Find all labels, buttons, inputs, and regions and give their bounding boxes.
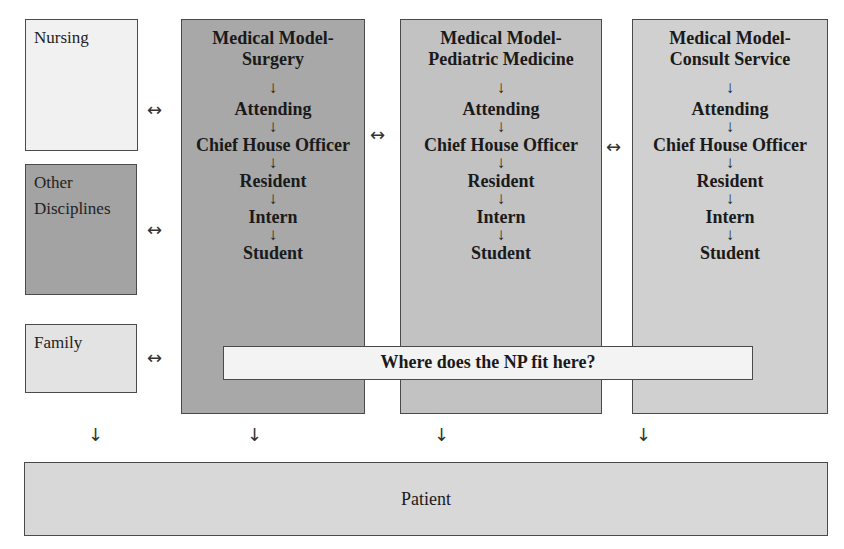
- down-arrow-icon: ↓: [88, 426, 103, 444]
- model-title-line: Consult Service: [633, 49, 827, 70]
- down-arrow-icon: ↓: [401, 120, 601, 134]
- down-arrow-icon: ↓: [434, 426, 449, 444]
- down-arrow-icon: ↓: [182, 78, 364, 98]
- rank-student: Student: [633, 242, 827, 264]
- model-title-line: Medical Model-: [633, 28, 827, 49]
- other-disciplines-box: Other Disciplines: [25, 164, 137, 295]
- model-title: Medical Model- Surgery: [182, 28, 364, 70]
- bidirectional-arrow-icon: ↔: [147, 101, 162, 119]
- down-arrow-icon: ↓: [636, 426, 651, 444]
- down-arrow-icon: ↓: [633, 78, 827, 98]
- rank-student: Student: [182, 242, 364, 264]
- patient-label: Patient: [401, 489, 451, 509]
- down-arrow-icon: ↓: [633, 156, 827, 170]
- nursing-label: Nursing: [34, 25, 89, 51]
- down-arrow-icon: ↓: [182, 192, 364, 206]
- model-title: Medical Model- Pediatric Medicine: [401, 28, 601, 70]
- family-label: Family: [34, 330, 82, 356]
- bidirectional-arrow-icon: ↔: [606, 138, 621, 156]
- down-arrow-icon: ↓: [401, 156, 601, 170]
- bidirectional-arrow-icon: ↔: [370, 126, 385, 144]
- down-arrow-icon: ↓: [633, 192, 827, 206]
- down-arrow-icon: ↓: [247, 426, 262, 444]
- model-title-line: Medical Model-: [182, 28, 364, 49]
- model-title-line: Pediatric Medicine: [401, 49, 601, 70]
- down-arrow-icon: ↓: [401, 228, 601, 242]
- model-title-line: Surgery: [182, 49, 364, 70]
- down-arrow-icon: ↓: [401, 78, 601, 98]
- rank-student: Student: [401, 242, 601, 264]
- model-title-line: Medical Model-: [401, 28, 601, 49]
- down-arrow-icon: ↓: [182, 120, 364, 134]
- down-arrow-icon: ↓: [401, 192, 601, 206]
- down-arrow-icon: ↓: [633, 228, 827, 242]
- patient-box: Patient: [24, 462, 828, 536]
- nursing-box: Nursing: [25, 19, 138, 151]
- family-box: Family: [25, 324, 137, 393]
- model-title: Medical Model- Consult Service: [633, 28, 827, 70]
- down-arrow-icon: ↓: [633, 120, 827, 134]
- hierarchy-chain: ↓ Attending ↓ Chief House Officer ↓ Resi…: [182, 78, 364, 264]
- bidirectional-arrow-icon: ↔: [147, 349, 162, 367]
- hierarchy-chain: ↓ Attending ↓ Chief House Officer ↓ Resi…: [633, 78, 827, 264]
- hierarchy-chain: ↓ Attending ↓ Chief House Officer ↓ Resi…: [401, 78, 601, 264]
- down-arrow-icon: ↓: [182, 156, 364, 170]
- np-question-banner: Where does the NP fit here?: [223, 346, 753, 380]
- bidirectional-arrow-icon: ↔: [147, 221, 162, 239]
- down-arrow-icon: ↓: [182, 228, 364, 242]
- other-disciplines-label: Other Disciplines: [34, 170, 134, 222]
